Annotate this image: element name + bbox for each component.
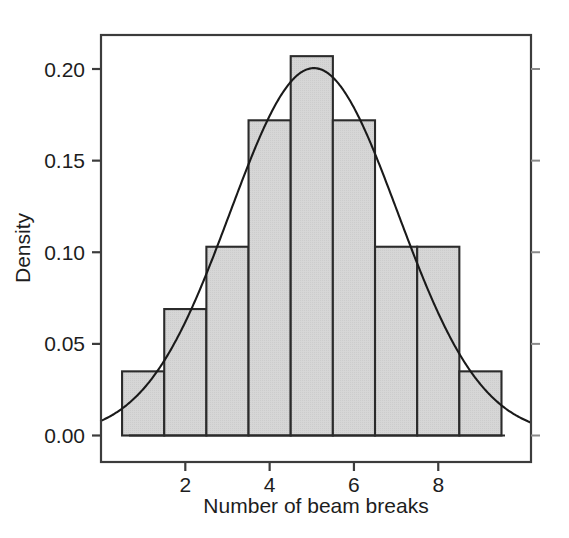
y-axis-ticks <box>92 69 101 436</box>
x-axis-tick-labels: 2468 <box>179 473 444 496</box>
x-tick-label: 8 <box>432 473 444 496</box>
histogram-bar <box>291 56 333 435</box>
y-axis-title: Density <box>11 212 34 283</box>
histogram-bar <box>375 247 417 436</box>
histogram-bar <box>333 120 375 435</box>
y-tick-label: 0.10 <box>44 241 85 264</box>
y-tick-label: 0.00 <box>44 424 85 447</box>
y-axis-right-ticks <box>531 69 540 436</box>
x-tick-label: 2 <box>179 473 191 496</box>
y-axis-tick-labels: 0.000.050.100.150.20 <box>44 58 85 448</box>
x-tick-label: 4 <box>264 473 276 496</box>
y-tick-label: 0.20 <box>44 58 85 81</box>
x-axis-title: Number of beam breaks <box>203 494 428 517</box>
x-tick-label: 6 <box>348 473 360 496</box>
histogram-figure: 0.000.050.100.150.20 2468 Number of beam… <box>0 0 569 538</box>
histogram-bar <box>206 247 248 436</box>
y-tick-label: 0.15 <box>44 149 85 172</box>
y-tick-label: 0.05 <box>44 332 85 355</box>
histogram-bar <box>459 371 501 435</box>
histogram-bar <box>164 309 206 435</box>
x-axis-ticks <box>185 462 438 471</box>
chart-canvas: 0.000.050.100.150.20 2468 Number of beam… <box>0 0 569 538</box>
histogram-bar <box>249 120 291 435</box>
